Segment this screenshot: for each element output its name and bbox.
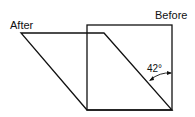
arc-arrow-right	[167, 71, 172, 75]
before-label: Before	[155, 10, 187, 21]
angle-label: 42°	[147, 64, 162, 74]
after-label: After	[10, 20, 33, 31]
arc-arrow-left	[149, 76, 154, 81]
shear-diagram: Before After 42°	[0, 0, 195, 117]
